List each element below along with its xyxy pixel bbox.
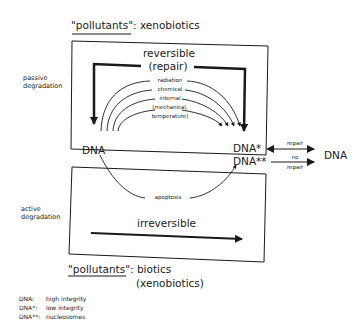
dna-left-node: DNA <box>82 144 105 156</box>
no-repair-label-2: repair <box>282 164 308 170</box>
arc-label-mechanical: (mechanical, <box>144 104 196 110</box>
legend-key-2: DNA**: <box>19 313 40 320</box>
irreversible-arrow <box>91 233 242 239</box>
legend-value-1: low integrity <box>46 304 84 311</box>
dna-right-node: DNA <box>324 149 347 161</box>
passive-label: passive <box>23 74 48 82</box>
arc-label-temperature: temperature) <box>144 113 196 119</box>
arc-label-radiation: radiation <box>150 77 190 83</box>
top-pollutants: "pollutants": xenobiotics <box>71 19 200 31</box>
apoptosis-label: apoptosis <box>147 194 189 200</box>
legend-key-0: DNA: <box>19 295 34 302</box>
legend-value-0: high integrity <box>46 295 86 302</box>
lower-box <box>69 167 266 262</box>
reversible-title: reversible <box>143 47 193 59</box>
irreversible-label: irreversible <box>137 217 196 229</box>
top-pollutants-label: "pollutants" <box>71 19 133 31</box>
active-label: active <box>21 205 41 213</box>
repair-arrow-label: repair <box>282 140 308 146</box>
dna-star-node: DNA* <box>233 142 261 154</box>
bottom-pollutants-value-2: (xenobiotics) <box>136 277 204 289</box>
arc-label-chemical: chemical <box>150 86 190 92</box>
passive-degradation-label: degradation <box>23 82 62 90</box>
legend-value-2: nucleosomes <box>46 313 85 320</box>
dna-double-star-node: DNA** <box>233 155 267 167</box>
no-repair-label-1: no <box>282 154 308 160</box>
arc-label-internal: internal <box>150 95 190 101</box>
bottom-pollutants-value: : biotics <box>130 263 171 275</box>
top-pollutants-value: : xenobiotics <box>133 19 200 31</box>
apoptosis-arc <box>100 155 236 198</box>
legend-key-1: DNA*: <box>19 304 37 311</box>
active-degradation-label: degradation <box>21 213 60 221</box>
bottom-pollutants-label: "pollutants" <box>68 263 130 275</box>
bottom-pollutants: "pollutants": biotics <box>68 263 171 275</box>
repair-subtitle: (repair) <box>143 60 193 72</box>
